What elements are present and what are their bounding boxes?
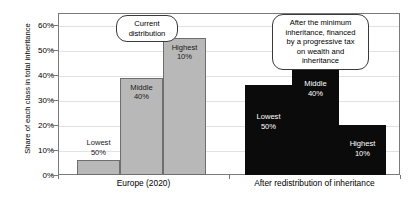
bar-label-after-middle-40-line1: Middle [304,70,326,89]
bar-label-europe-middle-40-line2: 40% [134,92,149,102]
bar-label-after-middle-40-line2: 40% [308,89,323,99]
gridline-40 [59,76,399,77]
callout-after-minimum-inheritance-line2: inheritance, financed [278,28,363,38]
callout-current-distribution: Current distribution [116,15,178,42]
bar-label-after-lowest-50-line2: 50% [261,122,276,132]
bar-label-europe-highest-10-line1: Highest [172,43,198,53]
bar-after-highest-10: Highest 10% [339,125,386,175]
inheritance-share-bar-chart: Share of each class in total inheritance… [0,0,420,199]
y-tick-label-10: 10% [20,146,54,155]
bar-label-europe-lowest-50-line2: 50% [77,148,120,158]
bar-label-after-lowest-50-line1: Lowest [256,90,280,122]
bar-europe-lowest-50 [77,160,120,175]
callout-after-minimum-inheritance-line1: After the minimum [278,18,363,28]
callout-current-distribution-line2: distribution [122,29,172,39]
y-tick-label-50: 50% [20,46,54,55]
callout-after-minimum-inheritance-line4: on wealth and [278,47,363,57]
bar-europe-middle-40: Middle 40% [120,78,163,176]
y-tick-label-40: 40% [20,71,54,80]
y-tick-label-30: 30% [20,96,54,105]
bar-label-after-highest-10-line2: 10% [355,149,370,159]
callout-current-distribution-line1: Current [122,19,172,29]
bar-after-lowest-50: Lowest 50% [245,85,292,175]
bar-label-europe-highest-10-line2: 10% [177,52,192,62]
x-group-label-europe: Europe (2020) [58,178,229,188]
y-tick-label-0: 0% [20,171,54,180]
gridline-30 [59,101,399,102]
bar-after-middle-40: Middle 40% [292,65,339,175]
bar-europe-highest-10: Highest 10% [163,38,206,176]
x-tick-mark-end [400,175,401,179]
callout-after-minimum-inheritance-line3: by a progressive tax [278,37,363,47]
x-group-label-after-redistribution: After redistribution of inheritance [229,178,400,188]
bar-label-after-highest-10-line1: Highest [350,130,376,149]
y-tick-label-60: 60% [20,21,54,30]
callout-after-minimum-inheritance: After the minimum inheritance, financed … [272,14,369,70]
bar-label-europe-middle-40-line1: Middle [130,83,152,93]
callout-after-minimum-inheritance-line5: inheritance [278,56,363,66]
bar-label-europe-lowest-50-line1: Lowest [77,138,120,148]
y-tick-label-20: 20% [20,121,54,130]
